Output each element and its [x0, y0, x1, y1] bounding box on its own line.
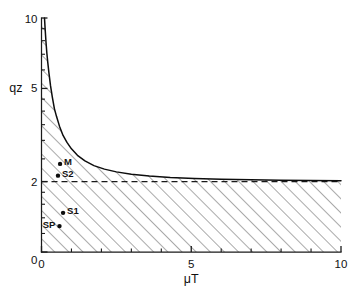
point-marker — [57, 224, 61, 228]
hatched-region-group — [42, 18, 342, 252]
figure-container: 10 5 2 0 0 5 10 qz μT MS2S1SP — [0, 0, 354, 287]
y-tick-label-2: 2 — [31, 176, 37, 188]
point-marker — [58, 162, 62, 166]
boundary-curve-group — [44, 18, 341, 181]
x-tick-label-5: 5 — [188, 258, 194, 270]
point-marker — [56, 173, 60, 177]
x-axis-title: μT — [184, 272, 199, 286]
y-axis-title: qz — [9, 81, 22, 95]
x-tick-label-10: 10 — [335, 258, 348, 270]
point-label-s1: S1 — [67, 205, 79, 216]
stability-boundary-curve — [44, 18, 341, 181]
y-tick-labels: 10 5 2 0 — [25, 13, 38, 266]
point-label-s2: S2 — [62, 168, 74, 179]
y-tick-label-0: 0 — [31, 254, 37, 266]
y-tick-label-10: 10 — [25, 13, 38, 25]
x-tick-labels: 0 5 10 — [38, 258, 347, 270]
point-label-sp: SP — [43, 219, 56, 230]
y-tick-label-5: 5 — [31, 82, 37, 94]
hatched-region — [42, 18, 342, 252]
x-tick-label-0: 0 — [38, 258, 44, 270]
point-marker — [61, 211, 65, 215]
point-label-m: M — [64, 156, 72, 167]
chart-canvas: 10 5 2 0 0 5 10 qz μT MS2S1SP — [0, 0, 354, 287]
